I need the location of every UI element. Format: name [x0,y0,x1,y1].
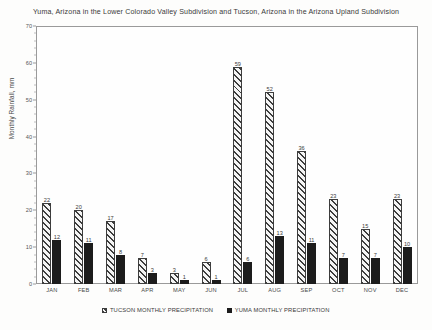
chart-container: Yuma, Arizona in the Lower Colorado Vall… [0,0,432,330]
bar-value-label: 1 [214,274,217,280]
bar[interactable]: 11 [84,243,93,284]
bar-value-label: 7 [141,252,144,258]
bar[interactable]: 7 [371,258,380,284]
bar-value-label: 15 [362,223,368,229]
legend-item[interactable]: TUCSON MONTHLY PRECIPITATION [102,307,213,313]
bar[interactable]: 1 [212,280,221,284]
chart-legend: TUCSON MONTHLY PRECIPITATIONYUMA MONTHLY… [0,307,432,313]
bar-group: 178 [100,26,132,284]
bar[interactable]: 20 [74,210,83,284]
plot-area: 010203040506070 221220111787331615965213… [36,26,418,284]
bar-group: 73 [131,26,163,284]
bar-group: 2310 [386,26,418,284]
bar-value-label: 6 [246,256,249,262]
x-axis-label-jan: JAN [36,287,68,293]
bar[interactable]: 7 [339,258,348,284]
bar-group: 3611 [291,26,323,284]
bar-value-label: 36 [298,145,304,151]
bar-value-label: 3 [173,267,176,273]
x-axis-label-mar: MAR [100,287,132,293]
bar[interactable]: 10 [403,247,412,284]
bar-value-label: 8 [119,249,122,255]
bar[interactable]: 12 [52,240,61,284]
bar-group: 5213 [259,26,291,284]
x-axis-labels: JANFEBMARAPRMAYJUNJULAUGSEPOCTNOVDEC [36,287,418,293]
x-axis-label-aug: AUG [259,287,291,293]
x-axis-label-may: MAY [163,287,195,293]
bar-value-label: 11 [309,237,315,243]
bar[interactable]: 11 [307,243,316,284]
chart-title: Yuma, Arizona in the Lower Colorado Vall… [0,8,432,16]
y-axis-title: Monthly Rainfall, mm [8,54,15,164]
bar-value-label: 13 [277,230,283,236]
bar-group: 2212 [36,26,68,284]
x-axis-label-apr: APR [131,287,163,293]
bar-value-label: 52 [267,86,273,92]
bar-value-label: 7 [342,252,345,258]
legend-swatch-icon [102,308,107,313]
x-axis-label-jun: JUN [195,287,227,293]
bar-group: 596 [227,26,259,284]
bar[interactable]: 59 [233,67,242,284]
x-axis-label-feb: FEB [68,287,100,293]
bar-value-label: 7 [374,252,377,258]
bar[interactable]: 6 [202,262,211,284]
x-axis-label-jul: JUL [227,287,259,293]
x-axis-label-sep: SEP [291,287,323,293]
bar-groups: 22122011178733161596521336112371572310 [36,26,418,284]
bar[interactable]: 1 [180,280,189,284]
bar-group: 31 [163,26,195,284]
bar[interactable]: 23 [393,199,402,284]
bar[interactable]: 6 [243,262,252,284]
bar-value-label: 11 [86,237,92,243]
bar[interactable]: 13 [275,236,284,284]
bar[interactable]: 52 [265,92,274,284]
legend-swatch-icon [227,308,232,313]
bar-group: 2011 [68,26,100,284]
bar-value-label: 12 [54,234,60,240]
bar-value-label: 20 [76,204,82,210]
x-axis-label-dec: DEC [386,287,418,293]
bar-group: 237 [322,26,354,284]
bar-value-label: 23 [330,193,336,199]
bar-value-label: 23 [394,193,400,199]
bar[interactable]: 15 [361,229,370,284]
legend-item[interactable]: YUMA MONTHLY PRECIPITATION [227,307,329,313]
bar-value-label: 59 [235,61,241,67]
bar-value-label: 17 [107,215,113,221]
bar-value-label: 22 [44,197,50,203]
bar-value-label: 6 [204,256,207,262]
bar[interactable]: 8 [116,255,125,284]
bar[interactable]: 22 [42,203,51,284]
legend-label: TUCSON MONTHLY PRECIPITATION [110,307,213,313]
x-axis-label-oct: OCT [322,287,354,293]
bar[interactable]: 17 [106,221,115,284]
bar-value-label: 3 [151,267,154,273]
bar[interactable]: 7 [138,258,147,284]
bar-value-label: 10 [404,241,410,247]
x-axis-label-nov: NOV [354,287,386,293]
bar-group: 157 [354,26,386,284]
legend-label: YUMA MONTHLY PRECIPITATION [235,307,330,313]
bar[interactable]: 36 [297,151,306,284]
bar-value-label: 1 [183,274,186,280]
bar-group: 61 [195,26,227,284]
bar[interactable]: 3 [170,273,179,284]
bar[interactable]: 23 [329,199,338,284]
bar[interactable]: 3 [148,273,157,284]
